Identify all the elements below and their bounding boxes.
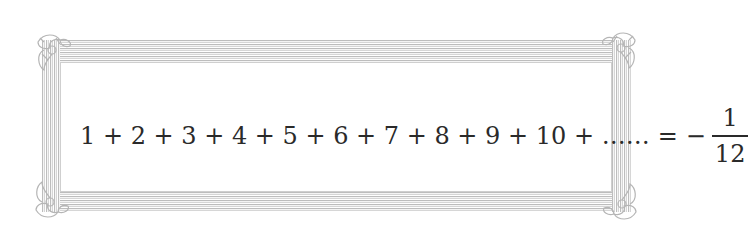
equals-sign: = bbox=[658, 122, 678, 150]
corner-ornament-bottom-right-icon bbox=[598, 180, 644, 226]
fraction: 1 12 bbox=[712, 106, 748, 166]
minus-sign: − bbox=[686, 122, 706, 150]
corner-ornament-top-right-icon bbox=[597, 26, 643, 72]
corner-ornament-bottom-left-icon bbox=[28, 178, 74, 224]
fraction-bar bbox=[712, 135, 748, 137]
frame-border-top bbox=[42, 40, 631, 62]
fraction-denominator: 12 bbox=[712, 142, 748, 166]
fraction-numerator: 1 bbox=[719, 106, 740, 130]
corner-ornament-top-left-icon bbox=[30, 28, 76, 74]
equation: 1 + 2 + 3 + 4 + 5 + 6 + 7 + 8 + 9 + 10 +… bbox=[80, 100, 748, 172]
frame-border-bottom bbox=[42, 192, 631, 212]
equation-series: 1 + 2 + 3 + 4 + 5 + 6 + 7 + 8 + 9 + 10 +… bbox=[80, 122, 650, 150]
